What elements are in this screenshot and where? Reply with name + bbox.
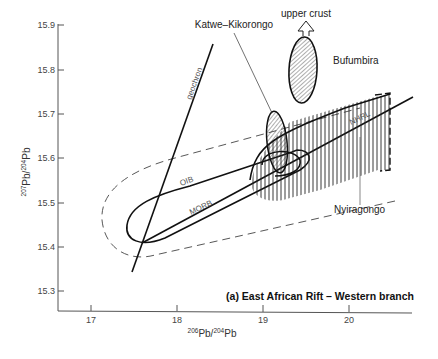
chart: 15.9 15.8 15.7 15.6 15.5 15.4 15.3 17 18… xyxy=(0,0,438,359)
y-tick-15.3: 15.3 xyxy=(37,286,55,296)
x-tick-17: 17 xyxy=(86,315,96,325)
x-tick-19: 19 xyxy=(258,315,268,325)
y-tick-15.7: 15.7 xyxy=(37,109,55,119)
y-axis-title: 207Pb/204Pb xyxy=(20,147,32,196)
y-tick-labels: 15.9 15.8 15.7 15.6 15.5 15.4 15.3 xyxy=(37,20,55,296)
morb-label: MORB xyxy=(188,199,214,217)
y-tick-15.5: 15.5 xyxy=(37,198,55,208)
x-tick-20: 20 xyxy=(344,315,354,325)
geochron-label: geochron xyxy=(184,66,204,100)
x-tick-labels: 17 18 19 20 xyxy=(86,315,354,325)
bufumbira-label: Bufumbira xyxy=(333,55,379,66)
x-axis-line xyxy=(58,311,412,313)
y-tick-15.6: 15.6 xyxy=(37,153,55,163)
katwe-leader-line xyxy=(234,33,272,113)
y-tick-15.4: 15.4 xyxy=(37,242,55,252)
y-tick-15.8: 15.8 xyxy=(37,65,55,75)
upper-crust-arrow-icon xyxy=(298,21,314,36)
x-tick-18: 18 xyxy=(172,315,182,325)
katwe-kikorongo-label: Katwe–Kikorongo xyxy=(195,19,274,30)
nyiragongo-label: Nyiragongo xyxy=(334,204,386,215)
upper-crust-label: upper crust xyxy=(281,8,331,19)
chart-title: (a) East African Rift – Western branch xyxy=(226,290,414,302)
y-tick-15.9: 15.9 xyxy=(37,20,55,30)
x-axis-title: 206Pb/204Pb xyxy=(188,327,237,339)
bufumbira-field xyxy=(287,36,318,103)
